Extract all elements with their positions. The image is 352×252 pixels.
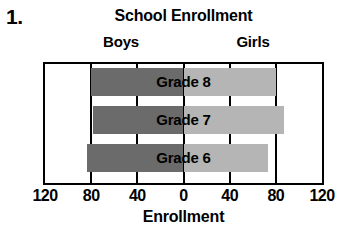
- x-tick-label: 120: [22, 186, 68, 206]
- bar-row: Grade 7: [45, 106, 322, 134]
- chart-title: School Enrollment: [43, 7, 324, 25]
- plot-inner: Grade 8Grade 7Grade 6: [45, 64, 322, 183]
- x-tick-label: 120: [299, 186, 345, 206]
- bar-label: Grade 7: [137, 106, 231, 134]
- x-tick-label: 40: [207, 186, 253, 206]
- x-axis-title: Enrollment: [43, 208, 324, 226]
- bar-row: Grade 6: [45, 144, 322, 172]
- bar-row: Grade 8: [45, 68, 322, 96]
- x-tick-label: 80: [253, 186, 299, 206]
- plot-area: Grade 8Grade 7Grade 6: [43, 62, 324, 185]
- bar-label: Grade 6: [137, 144, 231, 172]
- side-label-boys: Boys: [86, 34, 156, 51]
- chart-figure: 1. School Enrollment Boys Girls Grade 8G…: [0, 0, 352, 252]
- x-tick-label: 80: [68, 186, 114, 206]
- bar-label: Grade 8: [137, 68, 231, 96]
- item-number: 1.: [6, 6, 23, 27]
- side-label-girls: Girls: [218, 34, 288, 51]
- x-tick-label: 0: [161, 186, 207, 206]
- x-tick-label: 40: [114, 186, 160, 206]
- x-axis-tick-labels: 120804004080120: [43, 186, 324, 208]
